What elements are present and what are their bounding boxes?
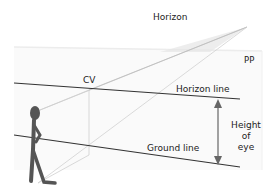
- ground-line-label: Ground line: [147, 144, 199, 153]
- picture-plane-label: PP: [244, 56, 254, 65]
- center-of-vision-label: CV: [83, 76, 95, 85]
- height-of-eye-label: Height of eye: [226, 120, 266, 153]
- perspective-diagram: [0, 0, 280, 195]
- sight-cone: [160, 27, 247, 52]
- horizon-line-label: Horizon line: [176, 85, 230, 94]
- horizon-label: Horizon: [153, 13, 187, 22]
